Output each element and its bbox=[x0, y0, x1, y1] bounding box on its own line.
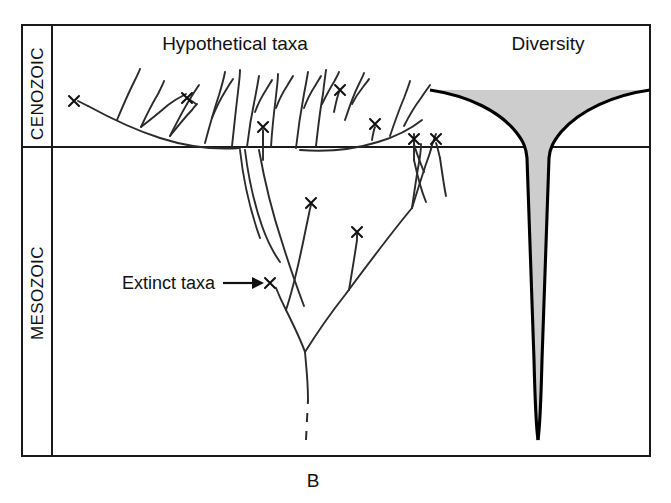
extinct-taxa-label: Extinct taxa bbox=[122, 273, 216, 293]
branch-l3 bbox=[170, 85, 199, 136]
branch-left-descend bbox=[240, 150, 260, 238]
branch-m1 bbox=[247, 76, 259, 147]
panel-letter-b: B bbox=[307, 470, 320, 491]
panel-title-diversity: Diversity bbox=[512, 33, 585, 54]
branch-below-436 bbox=[440, 158, 446, 196]
extinction-marks bbox=[69, 85, 441, 288]
trunk-dashed-base bbox=[306, 400, 308, 440]
figure-panel-b: CENOZOIC MESOZOIC Hypothetical taxa Dive… bbox=[0, 0, 671, 503]
phylogeny-diversity-diagram: CENOZOIC MESOZOIC Hypothetical taxa Dive… bbox=[0, 0, 671, 503]
branch-mesozoic-right-up bbox=[412, 145, 432, 208]
branch-r4 bbox=[345, 73, 364, 120]
era-label-cenozoic: CENOZOIC bbox=[28, 47, 47, 140]
extinct-taxa-annotation: Extinct taxa bbox=[122, 273, 264, 293]
panel-title-hypothetical-taxa: Hypothetical taxa bbox=[162, 33, 308, 54]
branch-r1 bbox=[296, 72, 308, 148]
branch-l1 bbox=[117, 69, 140, 120]
branch-mesozoic-left-up bbox=[286, 205, 311, 310]
chart-frame bbox=[22, 25, 650, 456]
diversity-outline-right bbox=[538, 90, 650, 440]
arc-center-down bbox=[259, 150, 304, 306]
extinction-mark-x bbox=[265, 278, 275, 288]
era-axis-labels: CENOZOIC MESOZOIC bbox=[28, 47, 47, 340]
branch-m3 bbox=[271, 74, 278, 147]
branch-r3 bbox=[390, 81, 410, 136]
diversity-outline-left bbox=[430, 90, 538, 440]
branch-l2-sub bbox=[141, 94, 186, 127]
branch-c1 bbox=[205, 72, 225, 143]
frame-border bbox=[22, 25, 650, 456]
branch-l2 bbox=[141, 81, 164, 127]
branch-to-x-375 bbox=[372, 127, 375, 140]
trunk-lower bbox=[305, 352, 308, 400]
era-label-mesozoic: MESOZOIC bbox=[28, 246, 47, 340]
branch-r3-sub bbox=[404, 85, 430, 126]
branch-to-x-436 bbox=[436, 143, 440, 158]
main-arc-left bbox=[88, 106, 240, 149]
extinction-mark-x bbox=[335, 85, 345, 95]
branch-c2 bbox=[232, 70, 240, 146]
arrow-right-icon bbox=[252, 277, 264, 289]
diversity-curve bbox=[430, 90, 650, 440]
